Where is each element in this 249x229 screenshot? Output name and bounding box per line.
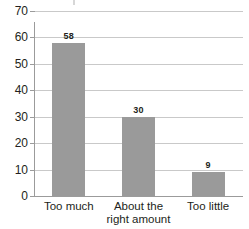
bar[interactable] xyxy=(192,172,225,196)
y-tick-label: 0 xyxy=(0,190,28,202)
y-tick-label: 40 xyxy=(0,84,28,96)
y-tick-label: 10 xyxy=(0,164,28,176)
y-tick-label: 70 xyxy=(0,5,28,17)
bar[interactable] xyxy=(122,117,155,196)
x-axis-label-line: About the xyxy=(107,200,171,213)
x-axis-label-line: Too little xyxy=(187,200,229,212)
bar-value-label: 58 xyxy=(64,31,75,41)
x-axis-label-line: right amount xyxy=(107,213,171,226)
x-axis-category-label: Too little xyxy=(187,200,229,213)
bar[interactable] xyxy=(52,43,85,196)
y-tick-label: 30 xyxy=(0,111,28,123)
x-axis-label-line: Too much xyxy=(44,200,94,212)
x-axis-category-label: Too much xyxy=(44,200,94,213)
bar-value-label: 9 xyxy=(206,160,211,170)
bar-chart: 010203040506070 58309 Too muchAbout ther… xyxy=(0,0,249,229)
bar-value-label: 30 xyxy=(133,105,144,115)
y-tick-label: 50 xyxy=(0,58,28,70)
gridline-0 xyxy=(34,196,243,197)
crop-artifact xyxy=(73,0,75,5)
x-axis-category-label: About theright amount xyxy=(107,200,171,226)
y-tick-label: 20 xyxy=(0,137,28,149)
y-tick-label: 60 xyxy=(0,31,28,43)
